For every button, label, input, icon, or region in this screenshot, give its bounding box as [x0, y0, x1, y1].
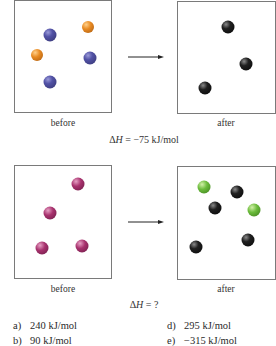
particle-blue: [44, 76, 57, 89]
particle-magenta: [36, 242, 49, 255]
particle-green: [248, 204, 261, 217]
particle-magenta: [76, 240, 89, 253]
particle-blue: [44, 29, 57, 42]
before-label: before: [51, 118, 75, 128]
delta-h-symbol: ΔH: [130, 299, 144, 310]
particle-blue: [84, 52, 97, 65]
reaction-arrow-icon: [128, 219, 164, 225]
particle-green: [198, 181, 211, 194]
answer-option-a[interactable]: a)240 kJ/mol: [13, 320, 77, 331]
particle-orange: [82, 21, 94, 33]
delta-h-symbol: ΔH: [109, 134, 123, 145]
option-text: 90 kJ/mol: [30, 335, 72, 346]
answer-option-b[interactable]: b)90 kJ/mol: [13, 335, 72, 346]
before-box-reaction-2: [14, 165, 112, 279]
particle-black: [222, 21, 235, 34]
particle-black: [209, 202, 222, 215]
particle-black: [240, 58, 253, 71]
option-letter: e): [167, 335, 184, 346]
option-text: 295 kJ/mol: [184, 320, 231, 331]
particle-magenta: [44, 207, 57, 220]
after-label: after: [217, 118, 234, 128]
after-box-reaction-2: [177, 166, 276, 280]
before-box-reaction-1: [14, 0, 112, 113]
option-letter: a): [13, 320, 30, 331]
after-label: after: [217, 284, 234, 294]
delta-h-value: = −75 kJ/mol: [123, 134, 179, 145]
before-label: before: [51, 284, 75, 294]
reaction-arrow-icon: [128, 54, 164, 60]
particle-black: [199, 82, 212, 95]
option-text: 240 kJ/mol: [30, 320, 77, 331]
enthalpy-change-reaction-2: ΔH = ?: [130, 299, 159, 310]
particle-black: [242, 234, 255, 247]
option-text: −315 kJ/mol: [184, 335, 237, 346]
particle-magenta: [72, 178, 85, 191]
answer-option-e[interactable]: e)−315 kJ/mol: [167, 335, 237, 346]
option-letter: d): [167, 320, 184, 331]
answer-option-d[interactable]: d)295 kJ/mol: [167, 320, 231, 331]
after-box-reaction-1: [177, 1, 276, 114]
delta-h-value: = ?: [143, 299, 158, 310]
enthalpy-change-reaction-1: ΔH = −75 kJ/mol: [109, 134, 179, 145]
option-letter: b): [13, 335, 30, 346]
particle-orange: [31, 49, 43, 61]
particle-black: [190, 241, 203, 254]
particle-black: [231, 186, 244, 199]
